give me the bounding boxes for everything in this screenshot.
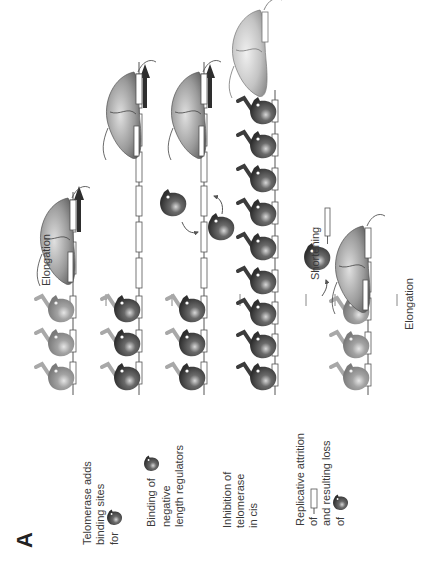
free-regulator-icon: [160, 189, 186, 216]
stage-label-elongation-2: Elongation: [403, 278, 416, 330]
panel-label: A: [12, 532, 38, 548]
stage-label-shortening: Shortening: [309, 227, 322, 280]
row-2-strand: [102, 60, 156, 395]
row-5-label: Replicative attrition of and resulting l…: [294, 433, 349, 526]
row-3-strand: [160, 60, 234, 395]
row-4-strand: [229, 0, 282, 395]
row-3-label: Inhibition of telomerase in cis: [221, 472, 260, 528]
telomerase-icon: [332, 214, 385, 314]
stage-label-elongation-1: Elongation: [40, 234, 53, 286]
repeat-segment-icon: [310, 488, 318, 514]
detached-telomerase-icon: [229, 0, 282, 98]
negative-regulator-protein-icon: [144, 453, 160, 475]
negative-regulator-protein-icon: [333, 492, 349, 514]
free-regulator-icon: [208, 213, 234, 240]
telomere-length-regulation-diagram: [0, 0, 426, 573]
row-2-label: Binding of negative length regulators: [144, 445, 186, 527]
row-1-strand: [36, 186, 90, 395]
row-5-strand: [331, 214, 385, 395]
row-1-label: Telomerase adds binding sites for: [81, 461, 123, 545]
negative-regulator-protein-icon: [107, 507, 123, 529]
